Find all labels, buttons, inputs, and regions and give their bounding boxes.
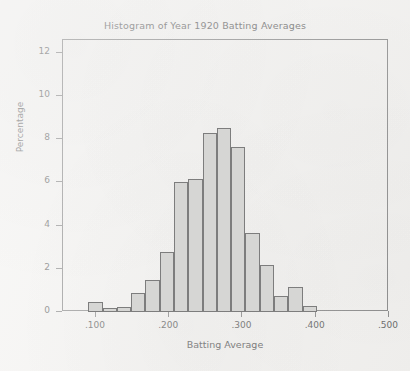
x-axis-tick-label: .300 xyxy=(219,320,263,330)
histogram-bar xyxy=(145,280,159,312)
histogram-bar xyxy=(103,308,117,312)
histogram-bar xyxy=(117,307,131,312)
histogram-bar xyxy=(131,293,145,312)
x-axis-label: Batting Average xyxy=(62,339,388,350)
histogram-bar xyxy=(260,265,274,312)
histogram-bar xyxy=(245,233,259,312)
histogram-bar xyxy=(217,128,231,312)
y-axis-tick-mark xyxy=(56,311,62,312)
histogram-figure: Histogram of Year 1920 Batting Averages … xyxy=(0,0,410,371)
y-axis-tick-label: 12 xyxy=(10,46,50,56)
y-axis-tick-label: 2 xyxy=(10,262,50,272)
y-axis-tick-label: 0 xyxy=(10,305,50,315)
histogram-bar xyxy=(231,147,245,312)
chart-title: Histogram of Year 1920 Batting Averages xyxy=(0,20,410,31)
x-axis-tick-label: .500 xyxy=(366,320,410,330)
x-axis-tick-label: .400 xyxy=(293,320,337,330)
histogram-bar xyxy=(288,287,302,312)
histogram-bar xyxy=(188,179,202,312)
x-axis-tick-label: .100 xyxy=(73,320,117,330)
histogram-bar xyxy=(274,296,288,312)
y-axis-tick-label: 8 xyxy=(10,132,50,142)
y-axis-tick-label: 10 xyxy=(10,89,50,99)
x-axis-tick-mark xyxy=(388,311,389,317)
y-axis-tick-label: 6 xyxy=(10,175,50,185)
plot-area xyxy=(62,39,388,311)
histogram-bar xyxy=(174,182,188,312)
histogram-bar xyxy=(160,252,174,312)
histogram-bar xyxy=(203,133,217,312)
histogram-bar xyxy=(303,306,317,312)
x-axis-tick-label: .200 xyxy=(146,320,190,330)
histogram-bars xyxy=(63,40,389,312)
y-axis-tick-label: 4 xyxy=(10,219,50,229)
histogram-bar xyxy=(88,302,102,312)
